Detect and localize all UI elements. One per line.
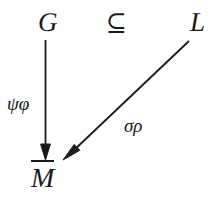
commutative-diagram: G ⊆ L M ψφ σρ xyxy=(0,0,219,204)
arrow-shaft-L-to-Mbar xyxy=(72,41,189,152)
arrowhead-G-to-Mbar xyxy=(41,144,51,160)
diagram-arrows xyxy=(0,0,219,204)
